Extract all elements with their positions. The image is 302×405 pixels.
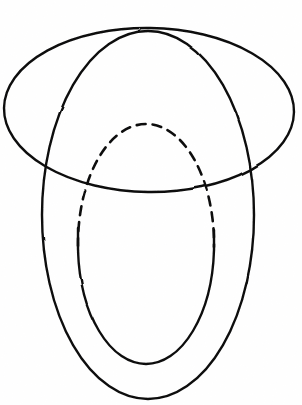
paper-grain [0, 0, 302, 405]
sphere-diagram-canvas [0, 0, 302, 405]
figure-root: Hand-drawn sphere with equatorial and me… [0, 0, 302, 405]
